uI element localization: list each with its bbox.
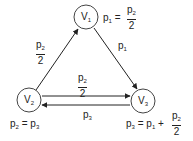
edge-v1-v3-label: p1 [118, 41, 127, 54]
equation-v3-fraction: p2 2 [172, 111, 181, 137]
equation-v3: p3 = p1 + [126, 119, 164, 132]
edge-v1-v3 [94, 28, 137, 89]
equation-v2: p2 = p3 [10, 119, 39, 132]
node-v1-label: V1 [75, 12, 97, 25]
equation-v1-fraction: p2 2 [127, 5, 136, 31]
node-v2-label: V2 [18, 95, 40, 108]
node-v3-label: V3 [132, 96, 154, 109]
edge-v2-v1-label: p2 2 [36, 40, 45, 66]
edge-v2-v3-label: p2 2 [78, 73, 87, 99]
edge-v3-v2-label: p3 [83, 110, 92, 123]
equation-v1: p1 = [103, 13, 121, 26]
